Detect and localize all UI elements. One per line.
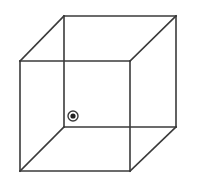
cube-svg <box>0 0 200 177</box>
top-right-connector <box>130 16 176 61</box>
connecting-edges <box>20 16 176 171</box>
top-left-connector <box>20 16 64 61</box>
necker-cube-diagram: Necker cube <box>0 0 200 177</box>
bottom-left-connector <box>20 127 64 171</box>
marker-dot <box>70 113 75 118</box>
bottom-right-connector <box>130 127 176 171</box>
fixation-marker-icon <box>68 111 78 121</box>
